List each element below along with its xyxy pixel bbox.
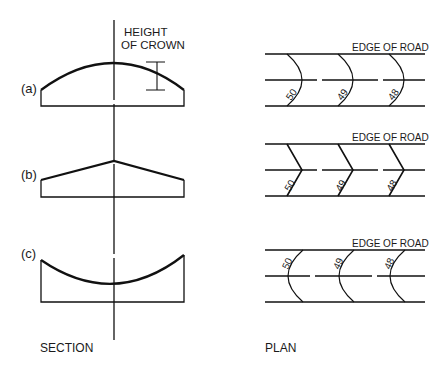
contour-label: 48 <box>382 256 397 271</box>
contour-label: 49 <box>335 86 351 102</box>
edge-of-road-label-b: EDGE OF ROAD <box>352 132 429 143</box>
contour-label: 48 <box>386 86 402 102</box>
road-crown-diagram: HEIGHT OF CROWN (a) (b) (c) SECTION EDGE… <box>0 0 443 372</box>
plan-c <box>265 250 425 302</box>
edge-of-road-label-c: EDGE OF ROAD <box>352 238 429 249</box>
label-c: (c) <box>21 246 36 261</box>
contour-label: 49 <box>333 177 348 193</box>
section-title: SECTION <box>40 341 93 355</box>
label-a: (a) <box>21 81 37 96</box>
contour-label: 50 <box>280 256 295 271</box>
section-c <box>41 255 184 302</box>
contour-label: 50 <box>284 86 300 102</box>
edge-of-road-label-a: EDGE OF ROAD <box>352 42 429 53</box>
plan-title: PLAN <box>265 341 296 355</box>
height-of-crown-label: HEIGHT <box>124 26 167 38</box>
label-b: (b) <box>21 167 37 182</box>
contour-label: 49 <box>331 256 346 271</box>
contour-label: 48 <box>384 177 399 193</box>
height-of-crown-label-2: OF CROWN <box>121 39 185 51</box>
section-b <box>41 161 184 197</box>
section-a <box>41 62 184 106</box>
contour-label: 50 <box>282 177 297 193</box>
